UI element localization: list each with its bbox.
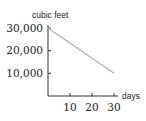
ticks: 10,00020,00030,000102030	[6, 22, 120, 114]
y-tick-label: 20,000	[6, 44, 43, 56]
chart: cubic feet days 10,00020,00030,000102030	[0, 0, 146, 121]
data-series	[48, 28, 114, 73]
y-tick-label: 30,000	[6, 22, 43, 34]
data-line	[48, 28, 114, 73]
y-axis-label: cubic feet	[32, 10, 69, 20]
x-tick-label: 10	[63, 101, 76, 113]
x-tick-label: 20	[85, 101, 98, 113]
y-tick-label: 10,000	[6, 67, 43, 79]
x-axis-label: days	[122, 91, 140, 101]
x-tick-label: 30	[107, 101, 120, 113]
